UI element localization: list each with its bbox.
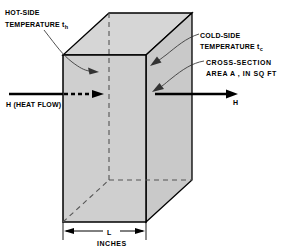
dimension-arrowhead-left <box>64 228 74 234</box>
cross-section-area-label: AREA A , IN SQ FT <box>206 69 277 79</box>
heat-flow-out-label: H <box>233 98 238 108</box>
dimension-units-label: INCHES <box>97 239 127 249</box>
cold-side-subscript: c <box>260 46 263 52</box>
hot-side-temperature-text: TEMPERATURE t <box>5 21 65 28</box>
hot-side-temperature-label: TEMPERATURE th <box>5 20 68 32</box>
dimension-length-label: L <box>107 228 111 238</box>
heat-flow-in-label: H (HEAT FLOW) <box>6 100 61 110</box>
cold-side-temperature-text: TEMPERATURE t <box>200 43 260 50</box>
dimension-arrowhead-right <box>135 228 145 234</box>
slab-front-face-hot <box>63 55 146 222</box>
slab-block <box>63 13 192 222</box>
heat-conduction-diagram <box>0 0 300 252</box>
diagram-canvas: HOT-SIDE TEMPERATURE th COLD-SIDE TEMPER… <box>0 0 300 252</box>
hot-side-label-line1: HOT-SIDE <box>5 8 40 18</box>
cold-side-label-line1: COLD-SIDE <box>200 31 240 41</box>
cold-side-temperature-label: TEMPERATURE tc <box>200 42 263 54</box>
cross-section-label-line1: CROSS-SECTION <box>206 58 272 68</box>
hot-side-subscript: h <box>65 24 68 30</box>
dimension-line-length <box>63 222 146 240</box>
